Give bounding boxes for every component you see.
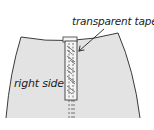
transparent-tape-label: transparent tape (72, 15, 154, 27)
transparent-tape (65, 41, 77, 100)
right-side-label: right side (14, 77, 64, 90)
